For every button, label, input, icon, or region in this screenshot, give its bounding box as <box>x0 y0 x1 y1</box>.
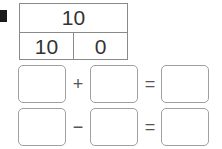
equals-sign-2: = <box>143 117 157 137</box>
subtraction-result-blank[interactable] <box>161 108 209 146</box>
subtraction-blank-2[interactable] <box>90 108 138 146</box>
minus-sign: − <box>71 117 85 137</box>
bond-part-1: 10 <box>20 33 74 60</box>
addition-blank-2[interactable] <box>90 65 138 103</box>
subtraction-blank-1[interactable] <box>18 108 66 146</box>
plus-sign: + <box>71 74 85 94</box>
equals-sign-1: = <box>143 74 157 94</box>
bond-whole: 10 <box>20 4 127 33</box>
bond-part-2: 0 <box>74 33 127 60</box>
addition-result-blank[interactable] <box>161 65 209 103</box>
exercise-marker <box>0 10 7 22</box>
addition-blank-1[interactable] <box>18 65 66 103</box>
number-bond-table: 10 10 0 <box>19 3 128 60</box>
